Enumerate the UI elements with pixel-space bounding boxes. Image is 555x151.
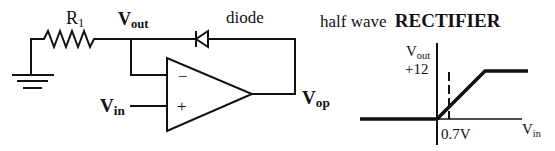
transfer-curve — [360, 71, 528, 119]
resistor-label-sub: 1 — [78, 16, 84, 30]
graph-x-axis-label-main: V — [522, 121, 533, 137]
graph-y-axis-label: Vout — [406, 44, 430, 59]
diode-icon — [196, 31, 208, 47]
graph-y-axis-label-sub: out — [417, 50, 430, 61]
opamp-plus-sign: + — [177, 98, 187, 115]
resistor-icon — [31, 31, 131, 75]
vop-label-sub: op — [316, 95, 330, 110]
title-main: RECTIFIER — [395, 10, 501, 31]
ground-icon — [12, 75, 54, 88]
graph-x-axis-label-sub: in — [533, 128, 541, 139]
vout-node-label: Vout — [118, 10, 149, 28]
diode-label: diode — [226, 9, 264, 26]
feedback-wire — [130, 39, 296, 106]
graph-x-annotation: 0.7V — [441, 127, 471, 142]
title-prefix: half wave — [320, 12, 387, 31]
graph-x-axis-label: Vin — [522, 122, 541, 137]
opamp-minus-sign: − — [178, 68, 188, 85]
graph-y-tick-label: +12 — [405, 62, 428, 77]
page-title: half wave RECTIFIER — [320, 11, 500, 30]
resistor-label-main: R — [66, 8, 78, 28]
vin-label-sub: in — [114, 103, 125, 118]
vout-node-label-main: V — [118, 9, 131, 29]
graph-y-axis-label-main: V — [406, 43, 417, 59]
vop-label-main: V — [302, 87, 316, 108]
vop-label: Vop — [302, 88, 330, 107]
vin-label: Vin — [100, 96, 125, 115]
resistor-label: R1 — [66, 9, 84, 27]
vin-label-main: V — [100, 95, 114, 116]
vout-node-label-sub: out — [131, 17, 149, 31]
